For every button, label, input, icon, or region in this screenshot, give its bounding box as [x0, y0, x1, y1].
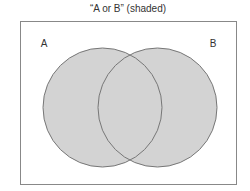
set-b-fill — [98, 48, 217, 167]
venn-diagram: A B — [0, 0, 250, 191]
set-b-label: B — [210, 38, 217, 49]
set-a-label: A — [41, 38, 48, 49]
